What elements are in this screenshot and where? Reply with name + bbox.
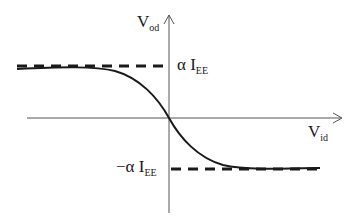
- upper-level-sub: EE: [196, 65, 208, 76]
- y-axis-label-sub: od: [149, 22, 159, 33]
- x-axis-label-main: V: [308, 122, 320, 141]
- lower-level-label: −α IEE: [116, 157, 157, 177]
- y-axis-label: Vod: [137, 12, 159, 32]
- y-axis-label-main: V: [137, 12, 149, 31]
- lower-level-prefix: −α I: [116, 157, 144, 176]
- x-axis-label: Vid: [308, 122, 328, 142]
- upper-level-prefix: α I: [177, 55, 196, 74]
- transfer-characteristic-diagram: [0, 0, 360, 224]
- lower-level-sub: EE: [144, 167, 156, 178]
- x-axis-label-sub: id: [320, 132, 328, 143]
- upper-level-label: α IEE: [177, 55, 208, 75]
